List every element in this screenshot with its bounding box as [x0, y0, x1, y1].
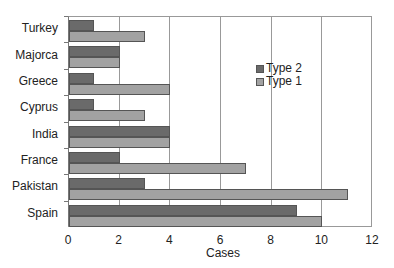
- x-tick-label: 0: [65, 233, 72, 247]
- y-tick: [64, 148, 68, 149]
- legend-swatch: [256, 65, 264, 73]
- x-tick-label: 6: [217, 233, 224, 247]
- bar: [69, 110, 145, 121]
- category-label: Turkey: [22, 21, 58, 35]
- bar: [69, 137, 170, 148]
- bar: [69, 73, 94, 84]
- bar: [69, 31, 145, 42]
- bar: [69, 216, 322, 227]
- y-tick: [64, 16, 68, 17]
- bar: [69, 163, 246, 174]
- x-tick-label: 12: [365, 233, 378, 247]
- category-label: Pakistan: [12, 179, 58, 193]
- legend-swatch: [256, 78, 264, 86]
- category-label: France: [21, 153, 58, 167]
- x-axis-label: Cases: [206, 246, 240, 260]
- y-tick: [64, 95, 68, 96]
- x-tick-label: 8: [267, 233, 274, 247]
- legend: Type 2 Type 1: [256, 62, 302, 88]
- y-tick: [64, 122, 68, 123]
- bar: [69, 84, 170, 95]
- legend-label: Type 1: [266, 75, 302, 88]
- bar: [69, 46, 120, 57]
- bar: [69, 57, 120, 68]
- y-tick: [64, 174, 68, 175]
- x-tick-label: 10: [315, 233, 328, 247]
- category-label: Spain: [27, 206, 58, 220]
- bar: [69, 152, 120, 163]
- y-tick: [64, 201, 68, 202]
- legend-item-type1: Type 1: [256, 75, 302, 88]
- bar: [69, 20, 94, 31]
- category-label: Cyprus: [20, 100, 58, 114]
- y-tick: [64, 42, 68, 43]
- x-tick-label: 4: [166, 233, 173, 247]
- bar: [69, 99, 94, 110]
- bar: [69, 126, 170, 137]
- y-tick: [64, 69, 68, 70]
- category-label: Majorca: [15, 48, 58, 62]
- bar: [69, 189, 348, 200]
- category-label: Greece: [19, 74, 58, 88]
- x-tick-label: 2: [115, 233, 122, 247]
- plot-area: [68, 16, 372, 227]
- bar: [69, 205, 297, 216]
- bar: [69, 178, 145, 189]
- category-label: India: [32, 127, 58, 141]
